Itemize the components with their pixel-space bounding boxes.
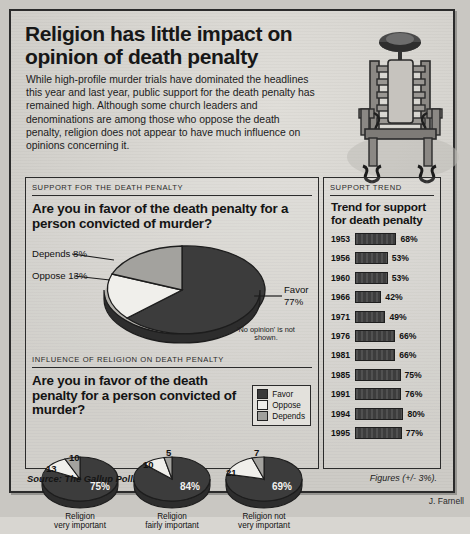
trend-year: 1971	[331, 312, 355, 322]
electric-chair-icon	[341, 25, 461, 185]
pie-label-oppose: Oppose 13%	[32, 270, 87, 281]
question-support: Are you in favor of the death penalty fo…	[26, 196, 318, 231]
panel-support-and-influence: SUPPORT FOR THE DEATH PENALTY Are you in…	[25, 177, 319, 469]
mini-caption-l1: Religion	[32, 512, 128, 521]
trend-value: 76%	[405, 389, 422, 399]
trend-year: 1960	[331, 273, 355, 283]
legend-label-favor: Favor	[272, 390, 293, 399]
mini-caption-l2: very important	[32, 521, 128, 530]
trend-year: 1976	[331, 331, 355, 341]
question-influence: Are you in favor of the death penalty fo…	[26, 368, 253, 418]
mini-pie-fairly-important: 84% 10 5 Religion fairly important	[124, 448, 220, 531]
trend-row: 197666%	[324, 326, 440, 345]
poster-paper: Religion has little impact on opinion of…	[9, 9, 455, 493]
source-note: Source: The Gallup Poll.	[27, 473, 135, 484]
trend-bar-list: 195368%195653%196053%196642%197149%19766…	[324, 229, 440, 442]
trend-row: 196642%	[324, 288, 440, 307]
panel-kicker-influence: INFLUENCE OF RELIGION ON DEATH PENALTY	[26, 350, 318, 367]
panel-kicker-trend: SUPPORT TREND	[324, 178, 440, 195]
legend-label-depends: Depends	[272, 412, 305, 421]
mini-pie-group: 75% 13 10 Religion very important	[26, 448, 318, 534]
mini-value-depends: 10	[69, 452, 80, 463]
legend-swatch-favor	[257, 389, 268, 399]
trend-bar	[355, 272, 388, 284]
trend-year: 1985	[331, 370, 355, 380]
pie-label-favor-name: Favor	[284, 284, 309, 295]
trend-row: 197149%	[324, 307, 440, 326]
trend-bar	[355, 252, 388, 264]
legend-item-favor: Favor	[257, 389, 305, 400]
mini-caption-l1: Religion	[124, 512, 220, 521]
legend-swatch-oppose	[257, 400, 268, 410]
trend-year: 1966	[331, 292, 355, 302]
mini-value-oppose: 13	[46, 463, 57, 474]
mini-caption-l2: very important	[216, 521, 312, 530]
trend-value: 68%	[400, 234, 417, 244]
trend-row: 198166%	[324, 346, 440, 365]
mini-value-depends: 7	[254, 448, 259, 458]
mini-caption-l2: fairly important	[124, 521, 220, 530]
figures-note: Figures (+/- 3%).	[370, 473, 437, 483]
mini-pie-very-important: 75% 13 10 Religion very important	[32, 448, 128, 531]
trend-row: 195368%	[324, 229, 440, 248]
trend-row: 199176%	[324, 385, 440, 404]
mini-value-depends: 5	[166, 448, 172, 458]
no-opinion-note: 'No opinion' is not shown.	[226, 326, 306, 343]
trend-value: 42%	[385, 292, 402, 302]
trend-value: 66%	[399, 331, 416, 341]
panel-kicker-support: SUPPORT FOR THE DEATH PENALTY	[26, 178, 318, 195]
trend-year: 1994	[331, 409, 355, 419]
trend-bar	[355, 427, 402, 439]
page-title: Religion has little impact on opinion of…	[25, 22, 325, 68]
trend-value: 80%	[407, 409, 424, 419]
mini-pie-not-very-important: 69% 21 7 Religion not very important	[216, 448, 312, 531]
legend-item-depends: Depends	[257, 411, 305, 422]
panel-support-trend: SUPPORT TREND Trend for support for deat…	[323, 177, 441, 469]
mini-value-favor: 69%	[272, 481, 292, 492]
trend-bar	[355, 388, 401, 400]
pie-label-depends: Depends 8%	[32, 248, 87, 259]
trend-row: 199480%	[324, 404, 440, 423]
trend-year: 1995	[331, 428, 355, 438]
mini-value-favor: 84%	[180, 481, 200, 492]
intro-paragraph: While high-profile murder trials have do…	[26, 73, 318, 152]
trend-bar	[355, 349, 395, 361]
trend-bar	[355, 369, 401, 381]
mini-caption-l1: Religion not	[216, 512, 312, 521]
pie-label-favor-value: 77%	[284, 296, 303, 307]
trend-value: 53%	[392, 273, 409, 283]
trend-row: 199577%	[324, 423, 440, 442]
trend-year: 1953	[331, 234, 355, 244]
legend-item-oppose: Oppose	[257, 400, 305, 411]
trend-year: 1981	[331, 350, 355, 360]
trend-bar	[355, 408, 403, 420]
main-pie-chart: Depends 8% Oppose 13% Favor 77% 'No opin…	[26, 232, 318, 350]
legend-label-oppose: Oppose	[272, 401, 301, 410]
mini-value-oppose: 10	[143, 459, 154, 470]
trend-value: 53%	[392, 253, 409, 263]
trend-value: 49%	[389, 312, 406, 322]
trend-value: 75%	[405, 370, 422, 380]
trend-year: 1956	[331, 253, 355, 263]
trend-bar	[355, 330, 395, 342]
trend-bar	[355, 291, 381, 303]
trend-row: 195653%	[324, 249, 440, 268]
artist-credit: J. Farnell	[429, 496, 464, 506]
trend-row: 198575%	[324, 365, 440, 384]
legend: Favor Oppose Depends	[252, 385, 311, 426]
trend-row: 196053%	[324, 268, 440, 287]
legend-swatch-depends	[257, 411, 268, 421]
mini-value-oppose: 21	[226, 467, 237, 478]
trend-value: 66%	[399, 350, 416, 360]
trend-title: Trend for support for death penalty	[324, 196, 440, 229]
trend-year: 1991	[331, 389, 355, 399]
trend-value: 77%	[406, 428, 423, 438]
trend-bar	[355, 311, 385, 323]
trend-bar	[355, 233, 396, 245]
